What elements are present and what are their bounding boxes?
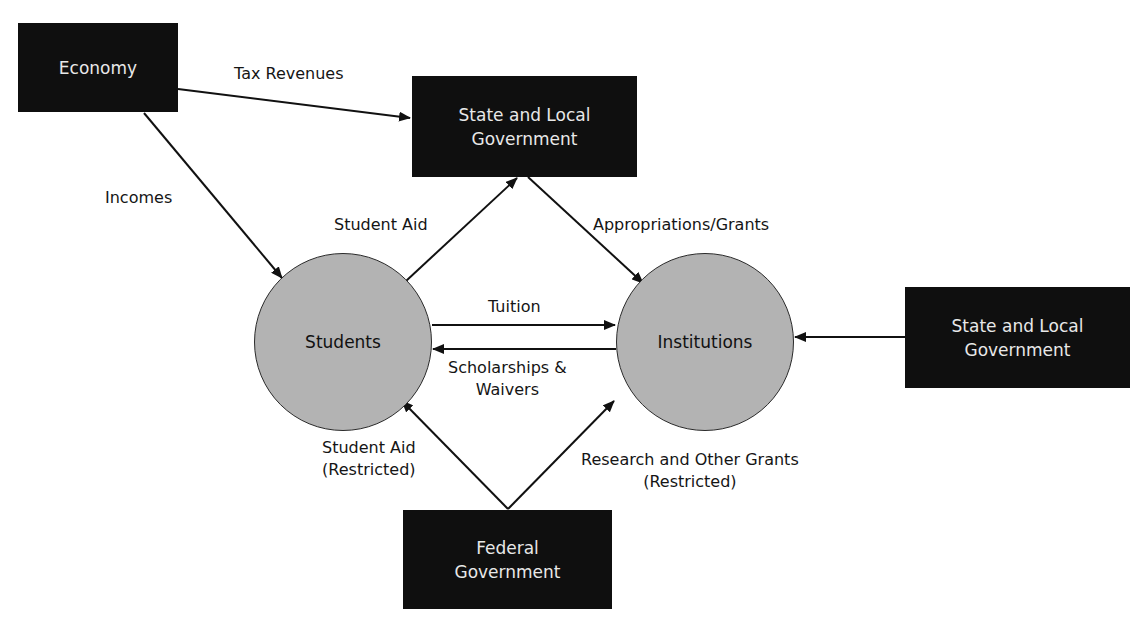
institutions-label: Institutions <box>658 332 753 352</box>
federal-line2: Government <box>454 560 560 584</box>
student-aid-restricted-label: Student Aid (Restricted) <box>322 437 416 481</box>
scholarships-line1: Scholarships & <box>448 357 567 379</box>
research-grants-line2: (Restricted) <box>581 471 799 493</box>
economy-box: Economy <box>18 23 178 112</box>
state-local-top-box: State and Local Government <box>412 76 637 177</box>
scholarships-label: Scholarships & Waivers <box>448 357 567 401</box>
research-grants-line1: Research and Other Grants <box>581 449 799 471</box>
tax-revenues-label: Tax Revenues <box>234 63 344 85</box>
student-aid-label: Student Aid <box>334 214 428 236</box>
state-local-right-line2: Government <box>964 338 1070 362</box>
student-aid-restricted-arrow <box>402 401 508 509</box>
state-local-right-line1: State and Local <box>952 314 1084 338</box>
federal-line1: Federal <box>476 536 539 560</box>
appropriations-label: Appropriations/Grants <box>593 214 769 236</box>
student-aid-restricted-line1: Student Aid <box>322 437 416 459</box>
students-node: Students <box>254 253 432 431</box>
state-local-right-box: State and Local Government <box>905 287 1130 388</box>
tax-revenues-arrow <box>178 89 410 118</box>
student-aid-restricted-line2: (Restricted) <box>322 459 416 481</box>
incomes-label: Incomes <box>105 187 172 209</box>
scholarships-line2: Waivers <box>448 379 567 401</box>
students-label: Students <box>305 332 381 352</box>
research-grants-label: Research and Other Grants (Restricted) <box>581 449 799 493</box>
tuition-label: Tuition <box>488 296 541 318</box>
economy-label: Economy <box>59 56 137 80</box>
state-local-top-line2: Government <box>471 127 577 151</box>
state-local-top-line1: State and Local <box>459 103 591 127</box>
institutions-node: Institutions <box>616 253 794 431</box>
federal-box: Federal Government <box>403 510 612 609</box>
